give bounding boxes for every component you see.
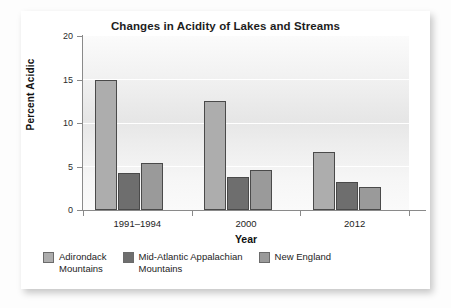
legend-label: Mid-Atlantic Appalachian Mountains <box>139 251 243 274</box>
x-axis-title: Year <box>83 233 409 245</box>
x-axis-tick <box>192 211 193 216</box>
bar <box>227 177 249 210</box>
legend-item[interactable]: Adirondack Mountains <box>43 251 107 274</box>
x-axis-tick <box>300 211 301 216</box>
legend-label: New England <box>275 251 332 263</box>
plot-area <box>83 36 409 210</box>
bar-group <box>204 36 272 210</box>
y-axis-tick <box>77 80 82 81</box>
legend-swatch-icon <box>259 252 270 263</box>
y-axis-title: Percent Acidic <box>25 35 36 155</box>
x-axis-tick-label: 1991–1994 <box>77 218 197 229</box>
y-axis-tick <box>77 123 82 124</box>
chart-legend: Adirondack MountainsMid-Atlantic Appalac… <box>43 251 413 274</box>
y-axis-tick <box>77 210 82 211</box>
bar <box>141 163 163 210</box>
x-axis-tick-label: 2000 <box>186 218 306 229</box>
y-axis-tick <box>77 167 82 168</box>
legend-label: Adirondack Mountains <box>59 251 107 274</box>
bar <box>336 182 358 210</box>
bar <box>95 80 117 211</box>
y-axis-tick-label: 0 <box>21 205 73 215</box>
x-axis-tick <box>409 211 410 216</box>
x-axis-tick <box>83 211 84 216</box>
y-axis-tick-label: 5 <box>21 162 73 172</box>
x-axis-tick-label: 2012 <box>295 218 415 229</box>
chart-title: Changes in Acidity of Lakes and Streams <box>21 20 430 32</box>
bar <box>250 170 272 210</box>
bar <box>313 152 335 210</box>
bar <box>118 173 140 210</box>
legend-swatch-icon <box>43 252 54 263</box>
bar <box>359 187 381 210</box>
y-axis-line <box>82 35 83 211</box>
bar-group <box>95 36 163 210</box>
bar <box>204 101 226 210</box>
x-axis-line <box>82 210 426 211</box>
legend-item[interactable]: New England <box>259 251 332 263</box>
y-axis-tick <box>77 36 82 37</box>
chart-card: Changes in Acidity of Lakes and Streams … <box>21 11 430 289</box>
bar-group <box>313 36 381 210</box>
legend-item[interactable]: Mid-Atlantic Appalachian Mountains <box>123 251 243 274</box>
legend-swatch-icon <box>123 252 134 263</box>
